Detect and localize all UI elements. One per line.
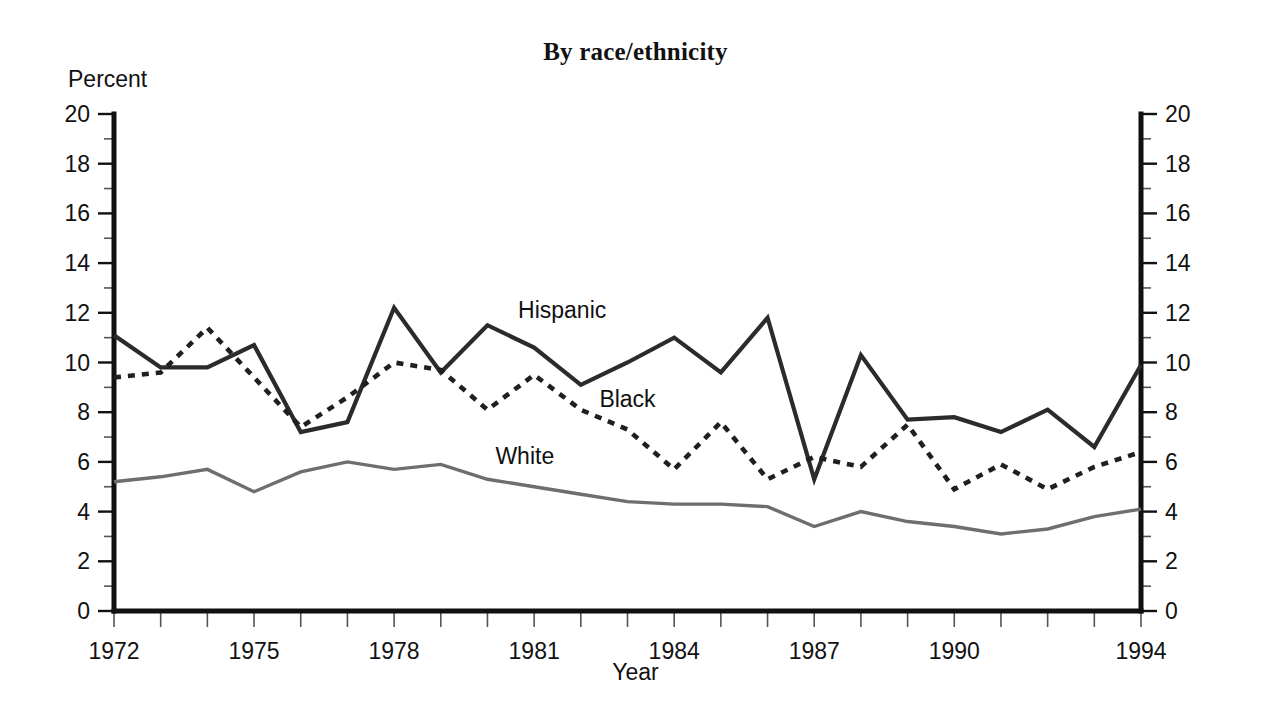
y-tick-label: 20 — [1165, 101, 1191, 127]
data-series-group — [114, 308, 1141, 534]
y-tick-label: 10 — [1165, 350, 1191, 376]
series-label-white: White — [495, 443, 554, 469]
y-tick-label: 12 — [1165, 300, 1191, 326]
y-tick-label: 2 — [77, 548, 90, 574]
x-tick-label: 1994 — [1115, 638, 1166, 664]
y-tick-label: 16 — [64, 200, 90, 226]
x-tick-label: 1972 — [88, 638, 139, 664]
y-axis-tick-labels-left: 02468101214161820 — [64, 101, 90, 624]
y-tick-label: 14 — [1165, 250, 1191, 276]
y-tick-label: 4 — [77, 499, 90, 525]
y-tick-label: 6 — [1165, 449, 1178, 475]
x-tick-label: 1978 — [369, 638, 420, 664]
y-tick-label: 6 — [77, 449, 90, 475]
series-line-white — [114, 462, 1141, 534]
y-tick-label: 18 — [64, 151, 90, 177]
x-tick-label: 1975 — [228, 638, 279, 664]
series-label-hispanic: Hispanic — [518, 297, 606, 323]
series-label-black: Black — [599, 386, 656, 412]
y-axis-tick-labels-right: 02468101214161820 — [1165, 101, 1191, 624]
x-tick-label: 1981 — [509, 638, 560, 664]
y-tick-label: 16 — [1165, 200, 1191, 226]
y-tick-label: 8 — [1165, 399, 1178, 425]
y-tick-label: 18 — [1165, 151, 1191, 177]
y-tick-label: 0 — [77, 598, 90, 624]
y-tick-label: 8 — [77, 399, 90, 425]
chart-figure: By race/ethnicity Percent Year 024681012… — [0, 0, 1271, 714]
x-tick-label: 1987 — [789, 638, 840, 664]
y-tick-label: 10 — [64, 350, 90, 376]
y-tick-label: 2 — [1165, 548, 1178, 574]
y-tick-label: 14 — [64, 250, 90, 276]
x-tick-label: 1984 — [649, 638, 700, 664]
y-tick-label: 0 — [1165, 598, 1178, 624]
y-tick-label: 12 — [64, 300, 90, 326]
x-axis-tick-labels: 19721975197819811984198719901994 — [88, 638, 1166, 664]
y-tick-label: 20 — [64, 101, 90, 127]
line-chart-plot: 02468101214161820 02468101214161820 1972… — [0, 0, 1271, 714]
y-tick-label: 4 — [1165, 499, 1178, 525]
x-tick-label: 1990 — [929, 638, 980, 664]
